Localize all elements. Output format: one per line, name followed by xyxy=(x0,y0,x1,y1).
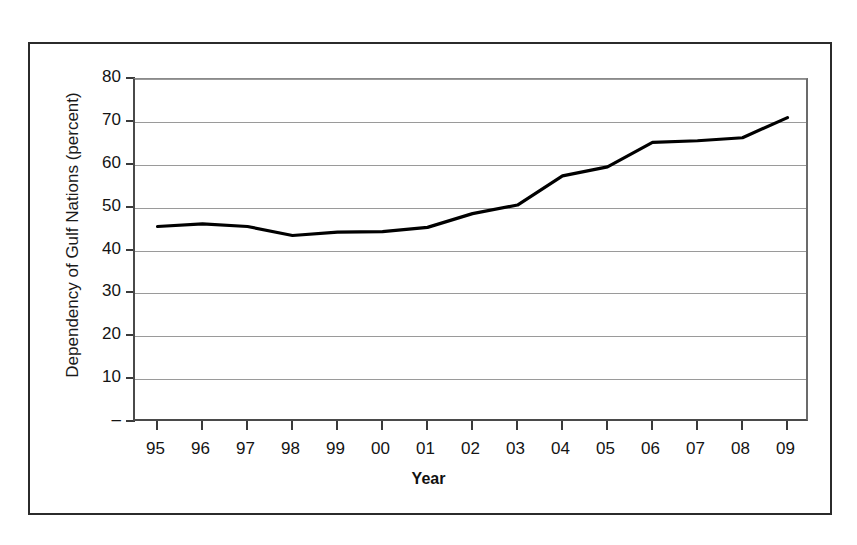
y-tick-label: 40 xyxy=(81,240,121,258)
x-tick-mark xyxy=(336,421,338,430)
x-axis-title: Year xyxy=(0,470,857,488)
y-tick-label: 20 xyxy=(81,325,121,343)
x-tick-mark xyxy=(201,421,203,430)
x-tick-mark xyxy=(651,421,653,430)
x-tick-label: 02 xyxy=(449,439,493,459)
x-tick-label: 07 xyxy=(674,439,718,459)
x-tick-label: 98 xyxy=(269,439,313,459)
y-tick-label: 50 xyxy=(81,197,121,215)
x-tick-label: 97 xyxy=(224,439,268,459)
x-tick-mark xyxy=(741,421,743,430)
x-tick-mark xyxy=(516,421,518,430)
x-tick-mark xyxy=(606,421,608,430)
plot-area xyxy=(133,78,808,421)
x-tick-label: 03 xyxy=(494,439,538,459)
x-tick-label: 05 xyxy=(584,439,628,459)
data-series-line xyxy=(158,118,788,236)
x-tick-mark xyxy=(156,421,158,430)
y-tick-label: – xyxy=(81,411,121,429)
chart-figure: Dependency of Gulf Nations (percent) –10… xyxy=(0,0,857,545)
data-line-svg xyxy=(135,79,810,422)
x-tick-mark xyxy=(291,421,293,430)
y-tick-label: 10 xyxy=(81,368,121,386)
x-tick-label: 08 xyxy=(719,439,763,459)
x-tick-mark xyxy=(426,421,428,430)
x-tick-mark xyxy=(381,421,383,430)
x-tick-label: 01 xyxy=(404,439,448,459)
x-tick-label: 95 xyxy=(134,439,178,459)
x-tick-label: 96 xyxy=(179,439,223,459)
y-tick-label: 70 xyxy=(81,111,121,129)
x-tick-label: 99 xyxy=(314,439,358,459)
x-tick-mark xyxy=(696,421,698,430)
x-tick-label: 09 xyxy=(764,439,808,459)
x-tick-mark xyxy=(561,421,563,430)
y-tick-label: 60 xyxy=(81,154,121,172)
x-tick-mark xyxy=(786,421,788,430)
x-tick-label: 00 xyxy=(359,439,403,459)
x-tick-mark xyxy=(246,421,248,430)
x-tick-mark xyxy=(471,421,473,430)
y-tick-label: 30 xyxy=(81,282,121,300)
y-tick-label: 80 xyxy=(81,68,121,86)
x-tick-label: 06 xyxy=(629,439,673,459)
x-tick-label: 04 xyxy=(539,439,583,459)
